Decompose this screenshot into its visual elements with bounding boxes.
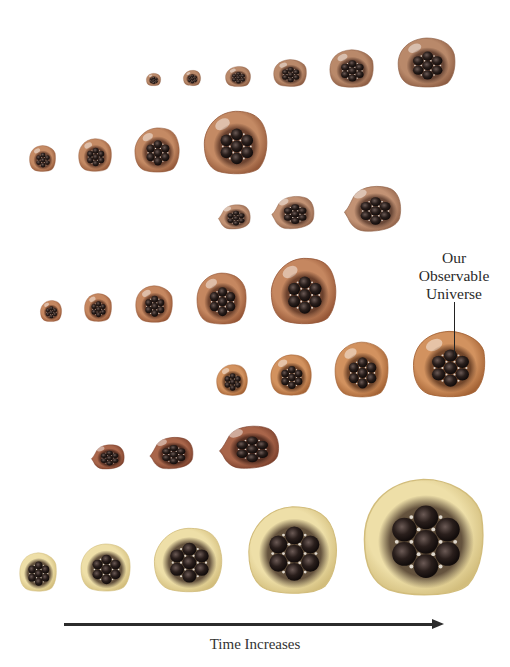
- sub-universe-sphere: [191, 78, 194, 81]
- sparkle-dot: [230, 378, 231, 379]
- sparkle-dot: [409, 540, 413, 544]
- sparkle-dot: [227, 301, 228, 303]
- sub-universe-sphere: [295, 370, 303, 378]
- sparkle-dot: [365, 377, 367, 379]
- sparkle-dot: [192, 555, 194, 557]
- sparkle-dot: [381, 201, 383, 202]
- sub-universe-sphere: [188, 79, 191, 82]
- sparkle-dot: [417, 552, 421, 556]
- sub-universe-sphere: [35, 578, 43, 586]
- sub-universe-sphere: [422, 52, 433, 61]
- sub-universe-sphere: [233, 216, 239, 221]
- sub-universe-sphere: [236, 72, 241, 76]
- sparkle-dot: [103, 564, 105, 566]
- sub-universe-sphere: [106, 451, 112, 456]
- sparkle-dot: [297, 281, 299, 283]
- sparkle-dot: [234, 384, 235, 385]
- sparkle-dot: [388, 210, 390, 211]
- sparkle-dot: [99, 157, 100, 158]
- sparkle-dot: [381, 220, 383, 221]
- universe-bubble: [342, 183, 402, 233]
- sparkle-dot: [109, 564, 111, 566]
- sparkle-dot: [433, 74, 435, 75]
- sub-universe-sphere: [269, 536, 287, 554]
- sparkle-dot: [241, 81, 242, 82]
- sub-universe-sphere: [358, 368, 368, 378]
- sub-universe-sphere: [150, 80, 153, 82]
- sub-universe-sphere: [241, 147, 253, 159]
- sparkle-dot: [304, 552, 307, 555]
- sparkle-dot: [178, 454, 179, 455]
- universe-bubble: [270, 194, 315, 230]
- sub-universe-sphere: [152, 79, 155, 81]
- sparkle-dot: [289, 373, 290, 374]
- callout-line-1: Our: [394, 249, 510, 267]
- sparkle-dot: [350, 372, 352, 374]
- sub-universe-sphere: [93, 560, 103, 570]
- sparkle-dot: [395, 540, 399, 544]
- sparkle-dot: [211, 301, 212, 303]
- sparkle-dot: [53, 312, 54, 313]
- sparkle-dot: [53, 308, 54, 309]
- sub-universe-sphere: [96, 301, 101, 306]
- sparkle-dot: [150, 299, 151, 300]
- sub-universe-sphere: [284, 214, 292, 220]
- universe-bubble: [217, 203, 251, 230]
- sub-universe-sphere: [237, 449, 248, 457]
- sub-universe-sphere: [110, 560, 120, 570]
- sparkle-dot: [158, 313, 159, 314]
- sparkle-dot: [88, 157, 89, 158]
- sparkle-dot: [40, 155, 41, 156]
- sparkle-dot: [109, 574, 111, 576]
- sparkle-dot: [265, 449, 267, 450]
- sparkle-dot: [235, 81, 236, 82]
- sparkle-dot: [378, 215, 380, 216]
- universe-bubble: [270, 354, 312, 396]
- sparkle-dot: [180, 562, 182, 564]
- sub-universe-sphere: [291, 204, 299, 210]
- sub-universe-sphere: [146, 153, 154, 161]
- sparkle-dot: [171, 451, 172, 452]
- sparkle-dot: [232, 213, 233, 214]
- sub-universe-sphere: [233, 211, 239, 216]
- sparkle-dot: [235, 77, 236, 78]
- sparkle-dot: [289, 381, 290, 382]
- sparkle-dot: [453, 540, 457, 544]
- sparkle-dot: [176, 451, 177, 452]
- sparkle-dot: [162, 306, 163, 307]
- sparkle-dot: [245, 457, 247, 458]
- sparkle-dot: [356, 383, 358, 385]
- sub-universe-sphere: [28, 566, 36, 574]
- sub-universe-sphere: [96, 307, 101, 312]
- sparkle-dot: [243, 218, 244, 219]
- sub-universe-sphere: [291, 218, 299, 224]
- sub-universe-sphere: [157, 299, 164, 306]
- sub-universe-sphere: [194, 76, 197, 79]
- sparkle-dot: [150, 306, 151, 307]
- sparkle-dot: [160, 156, 161, 157]
- sparkle-dot: [299, 220, 300, 221]
- sparkle-dot: [243, 145, 245, 147]
- sub-universe-sphere: [240, 78, 245, 82]
- sparkle-dot: [150, 313, 151, 314]
- sparkle-dot: [227, 291, 228, 293]
- universe-bubble: [329, 49, 374, 88]
- sparkle-dot: [248, 453, 250, 454]
- sub-universe-sphere: [49, 306, 53, 310]
- sub-universe-sphere: [177, 448, 185, 454]
- sub-universe-sphere: [112, 458, 118, 463]
- sub-universe-sphere: [285, 545, 303, 563]
- sparkle-dot: [244, 77, 245, 78]
- sub-universe-sphere: [282, 70, 288, 75]
- sparkle-dot: [304, 571, 307, 574]
- sparkle-dot: [238, 449, 240, 450]
- sub-universe-sphere: [46, 308, 50, 312]
- sparkle-dot: [237, 75, 238, 76]
- sub-universe-sphere: [145, 299, 152, 306]
- sparkle-dot: [53, 316, 54, 317]
- sub-universe-sphere: [293, 75, 299, 80]
- sparkle-dot: [371, 215, 373, 216]
- sparkle-dot: [197, 562, 199, 564]
- sparkle-dot: [118, 569, 120, 571]
- sparkle-dot: [230, 384, 231, 385]
